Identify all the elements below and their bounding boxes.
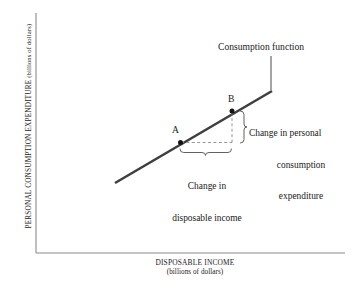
consumption-function-figure: PERSONAL CONSUMPTION EXPENDITURE (billio…: [0, 0, 360, 292]
vertical-change-line-2: consumption: [249, 160, 353, 171]
point-a-label: A: [172, 125, 179, 136]
point-b-marker: [230, 109, 235, 114]
horizontal-change-line-1: Change in: [152, 181, 262, 192]
vertical-brace: [241, 111, 248, 143]
vertical-change-annotation: Change in personal consumption expenditu…: [249, 107, 353, 223]
x-axis-title: DISPOSABLE INCOME(billions of dollars): [110, 259, 280, 276]
vertical-change-line-1: Change in personal: [249, 128, 353, 139]
consumption-function-label: Consumption function: [218, 42, 304, 53]
point-b-label: B: [228, 94, 234, 105]
y-axis-title-sub: (billions of dollars): [25, 24, 32, 80]
x-axis-title-sub: (billions of dollars): [110, 268, 280, 276]
vertical-change-line-3: expenditure: [249, 191, 353, 202]
horizontal-change-line-2: disposable income: [152, 213, 262, 224]
x-axis-title-main: DISPOSABLE INCOME: [155, 258, 234, 267]
point-a-marker: [178, 140, 183, 145]
y-axis-title-main: PERSONAL CONSUMPTION EXPENDITURE: [24, 80, 33, 229]
horizontal-change-annotation: Change in disposable income: [152, 160, 262, 244]
horizontal-brace: [180, 149, 232, 156]
y-axis-title: PERSONAL CONSUMPTION EXPENDITURE (billio…: [25, 11, 33, 241]
